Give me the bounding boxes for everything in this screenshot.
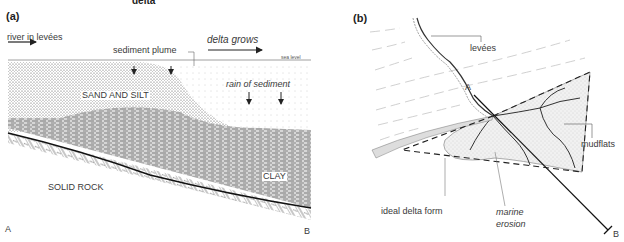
clay-label: CLAY: [262, 172, 287, 181]
levees-label: levées: [470, 44, 496, 53]
marine-erosion-label-line2: erosion: [496, 220, 526, 229]
delta-grows-label: delta grows: [207, 35, 258, 45]
marine-erosion-label-line1: marine: [496, 208, 524, 217]
section-end-b-label: B: [304, 227, 310, 236]
rain-of-sediment-label: rain of sediment: [226, 80, 290, 89]
delta-diagram: [0, 0, 624, 242]
figure-title-fragment: delta: [132, 0, 155, 6]
panel-b-label: (b): [353, 13, 367, 24]
solid-rock-label: SOLID ROCK: [48, 183, 104, 192]
cross-section-panel-a: [8, 42, 311, 220]
panel-a-label: (a): [6, 11, 19, 22]
mudflats-label: mudflats: [581, 140, 615, 149]
ideal-delta-form-label: ideal delta form: [381, 207, 443, 216]
sea-level-label: sea level: [281, 55, 301, 60]
sediment-plume-label: sediment plume: [113, 46, 177, 55]
sand-and-silt-label: SAND AND SILT: [81, 91, 150, 100]
section-point-b-label: B: [613, 230, 619, 239]
river-in-levees-label: river in levées: [7, 33, 63, 42]
section-end-a-label: A: [5, 225, 11, 234]
section-point-a-label: A: [465, 83, 471, 92]
